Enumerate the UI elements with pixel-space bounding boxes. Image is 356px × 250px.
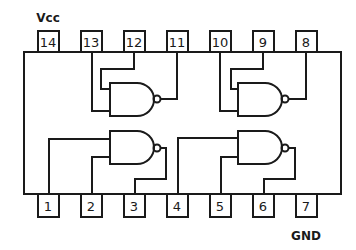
pin-10-label: 10: [212, 35, 229, 50]
pin-4: 4: [167, 194, 188, 217]
nand-gate-icon: [110, 83, 154, 116]
wire-pin4: [178, 138, 238, 194]
pin-1-label: 1: [44, 199, 52, 214]
pin-11-label: 11: [169, 35, 186, 50]
pin-13-label: 13: [83, 35, 100, 50]
wire-pin10: [220, 52, 238, 111]
ic-pinout-diagram: Vcc GND 14 13 12 11 10 9: [0, 0, 356, 250]
pin-14: 14: [38, 31, 59, 52]
pin-3-label: 3: [130, 199, 138, 214]
pin-5-label: 5: [216, 199, 224, 214]
pin-10: 10: [210, 31, 231, 52]
pin-8-label: 8: [302, 35, 310, 50]
top-pins: 14 13 12 11 10 9 8: [38, 31, 317, 52]
pin-7: 7: [296, 194, 317, 217]
nand-gate-icon: [110, 131, 154, 164]
pin-14-label: 14: [40, 35, 57, 50]
nand-gate-3: [92, 52, 177, 116]
nand-gate-4: [220, 52, 306, 116]
pin-5: 5: [210, 194, 231, 217]
pin-9-label: 9: [259, 35, 267, 50]
pin-8: 8: [296, 31, 317, 52]
nand-gate-1: [49, 131, 166, 194]
nand-gate-icon: [238, 83, 282, 116]
wire-pin11: [161, 52, 178, 99]
pin-12-label: 12: [126, 35, 143, 50]
nand-gate-icon: [238, 131, 282, 164]
pin-11: 11: [167, 31, 188, 52]
pin-3: 3: [124, 194, 145, 217]
pin-9: 9: [253, 31, 274, 52]
pin-2: 2: [81, 194, 102, 217]
pin-2-label: 2: [87, 199, 95, 214]
pin-6: 6: [253, 194, 274, 217]
wire-pin5: [221, 157, 238, 194]
wire-pin2: [92, 157, 110, 194]
gnd-label: GND: [291, 229, 321, 243]
nand-gate-2: [178, 131, 295, 194]
pin-13: 13: [81, 31, 102, 52]
wire-pin3: [135, 148, 166, 194]
pin-7-label: 7: [302, 199, 310, 214]
pin-6-label: 6: [259, 199, 267, 214]
pin-4-label: 4: [173, 199, 181, 214]
wire-pin8: [289, 52, 307, 99]
vcc-label: Vcc: [36, 11, 60, 25]
wire-pin1: [49, 139, 110, 194]
bottom-pins: 1 2 3 4 5 6 7: [38, 194, 317, 217]
pin-1: 1: [38, 194, 59, 217]
pin-12: 12: [124, 31, 145, 52]
ic-body: [24, 52, 341, 194]
